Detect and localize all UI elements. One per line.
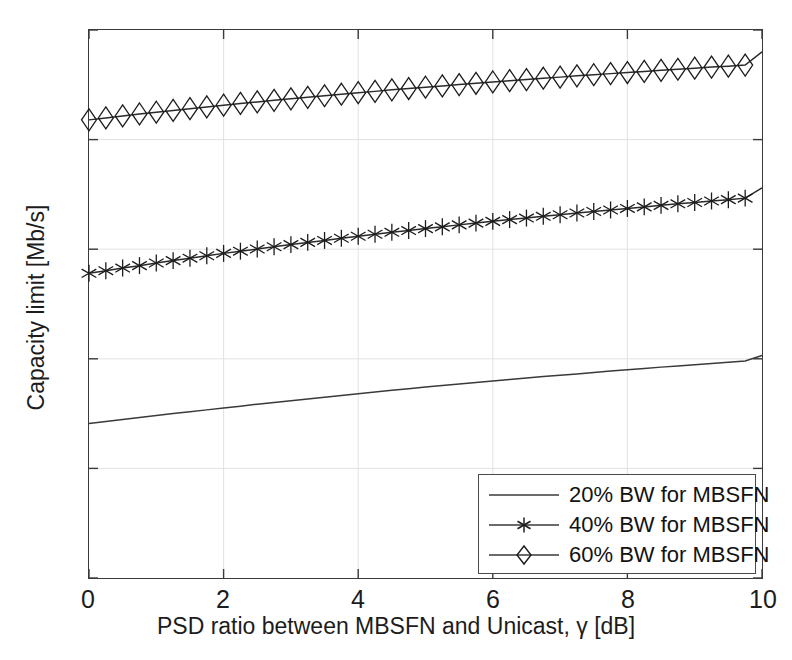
legend-label-40: 40% BW for MBSFN — [569, 514, 769, 536]
legend-label-60: 60% BW for MBSFN — [569, 544, 769, 566]
x-tick-0: 0 — [58, 587, 118, 612]
legend-sample-line-diamond — [487, 543, 561, 567]
y-axis-label: Capacity limit [Mb/s] — [23, 58, 50, 558]
legend-sample-line-asterisk — [487, 513, 561, 537]
x-tick-6: 6 — [463, 587, 523, 612]
legend-box: 20% BW for MBSFN 40% BW for MBSFN 60% BW… — [478, 474, 756, 574]
series-0 — [89, 356, 762, 424]
figure-canvas: 0510152025 0246810 PSD ratio between MBS… — [0, 0, 792, 660]
legend-sample-line-plain — [487, 483, 561, 507]
x-axis-label: PSD ratio between MBSFN and Unicast, γ [… — [0, 613, 792, 640]
x-tick-2: 2 — [193, 587, 253, 612]
series-2 — [82, 52, 762, 131]
x-tick-10: 10 — [733, 587, 792, 612]
legend-item-40: 40% BW for MBSFN — [479, 510, 755, 540]
series-1 — [82, 188, 762, 282]
legend-item-20: 20% BW for MBSFN — [479, 480, 755, 510]
legend-label-20: 20% BW for MBSFN — [569, 484, 769, 506]
x-tick-4: 4 — [328, 587, 388, 612]
legend-item-60: 60% BW for MBSFN — [479, 540, 755, 570]
x-tick-8: 8 — [598, 587, 658, 612]
